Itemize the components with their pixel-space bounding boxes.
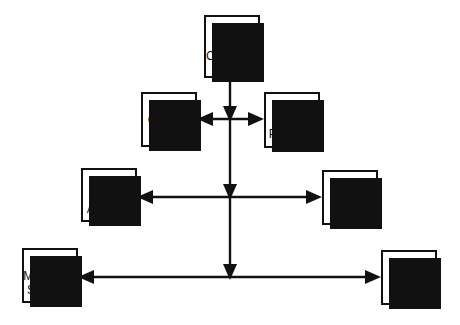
node-number-3: 3 bbox=[289, 99, 296, 113]
node-label-mgmt-info-systems: Mgmt Info Systems bbox=[23, 269, 76, 297]
node-number-7: 7 bbox=[406, 257, 413, 271]
node-label-finl-planning: Fin'l Planning bbox=[269, 113, 316, 141]
node-label-taxes: Taxes bbox=[334, 200, 365, 214]
node-label-cost-acctg: Cost Acctg. bbox=[392, 271, 425, 299]
arrowhead-down-level1 bbox=[223, 106, 237, 122]
node-number-5: 5 bbox=[347, 182, 354, 196]
node-finl-planning[interactable]: 3 Fin'l Planning bbox=[264, 92, 320, 148]
node-label-finl-analysis: Fin'l Analysis bbox=[87, 188, 132, 216]
node-finl-analysis[interactable]: 4 Fin'l Analysis bbox=[81, 168, 137, 222]
arrowhead-down-level2 bbox=[223, 184, 237, 200]
arrowhead-right-taxes bbox=[306, 190, 322, 204]
arrowhead-right-cost-acctg bbox=[365, 270, 381, 284]
node-cost-acctg[interactable]: 7 Cost Acctg. bbox=[381, 250, 437, 305]
node-general-acctg[interactable]: 2 General Acctg. bbox=[141, 92, 197, 147]
node-label-controller: Controller bbox=[206, 49, 258, 63]
node-taxes[interactable]: 5 Taxes bbox=[322, 170, 378, 225]
node-number-2: 2 bbox=[166, 99, 173, 113]
node-mgmt-info-systems[interactable]: 6 Mgmt Info Systems bbox=[22, 248, 78, 303]
node-label-general-acctg: General Acctg. bbox=[148, 113, 191, 141]
node-controller[interactable]: 1 Controller bbox=[204, 15, 260, 78]
node-number-1: 1 bbox=[229, 31, 236, 45]
arrowhead-right-finl-planning bbox=[248, 112, 264, 126]
org-chart-diagram: 1 Controller 2 General Acctg. 3 Fin'l Pl… bbox=[0, 0, 460, 325]
node-number-4: 4 bbox=[106, 174, 113, 188]
arrowhead-down-level3 bbox=[223, 264, 237, 280]
node-number-6: 6 bbox=[47, 255, 54, 269]
